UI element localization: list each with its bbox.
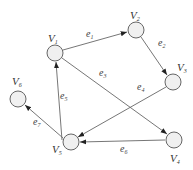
edge-label-e4: e4 xyxy=(137,81,144,93)
graph-svg: V1 V2 V3 V4 V5 V6 e1 e2 e3 e4 e5 e6 e7 xyxy=(0,0,193,170)
node-label-v3: V3 xyxy=(177,61,187,74)
edge-e7 xyxy=(25,105,63,138)
edge-e5 xyxy=(56,62,62,140)
edge-e6 xyxy=(80,140,165,142)
node-v5 xyxy=(63,134,79,150)
node-label-v1: V1 xyxy=(48,32,58,45)
graph-diagram: V1 V2 V3 V4 V5 V6 e1 e2 e3 e4 e5 e6 e7 xyxy=(0,0,193,170)
node-label-v5: V5 xyxy=(52,143,62,156)
edge-e3 xyxy=(62,58,167,134)
edge-e1 xyxy=(63,32,127,50)
node-label-v4: V4 xyxy=(170,152,180,165)
node-v3 xyxy=(165,74,181,90)
node-label-v2: V2 xyxy=(130,9,140,22)
edge-label-e1: e1 xyxy=(86,28,93,40)
edge-label-e5: e5 xyxy=(60,90,67,102)
edge-e4 xyxy=(78,87,166,137)
node-label-v6: V6 xyxy=(12,75,22,88)
node-v6 xyxy=(10,91,26,107)
node-v1 xyxy=(47,45,63,61)
edge-label-e3: e3 xyxy=(99,67,106,79)
node-v4 xyxy=(166,132,182,148)
edge-label-e2: e2 xyxy=(158,37,165,49)
edge-label-e6: e6 xyxy=(120,143,127,155)
node-v2 xyxy=(128,22,144,38)
